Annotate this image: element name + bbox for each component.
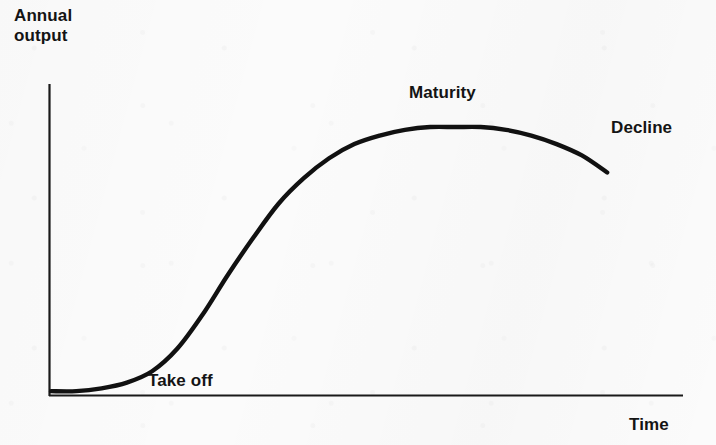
- x-axis-title: Time: [629, 415, 669, 435]
- product-life-cycle-chart: Annualoutput Take off Maturity Decline T…: [0, 0, 716, 445]
- chart-plot-area: [0, 0, 716, 445]
- y-axis-title: Annualoutput: [14, 6, 72, 46]
- y-axis-title-line-2: output: [14, 26, 67, 45]
- annotation-take-off: Take off: [148, 371, 213, 391]
- life-cycle-curve: [51, 127, 607, 392]
- y-axis-title-line-1: Annual: [14, 6, 72, 25]
- annotation-decline: Decline: [611, 118, 672, 138]
- annotation-maturity: Maturity: [409, 83, 476, 103]
